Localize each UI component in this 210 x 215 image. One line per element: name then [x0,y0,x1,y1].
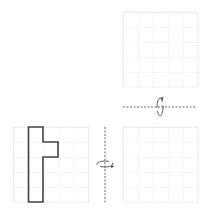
source-grid [14,127,89,202]
rotate-vertical-arrow-icon [157,97,164,117]
rotate-horizontal-arrow-icon [97,161,115,168]
vertical-flip-result-grid [123,127,198,202]
horizontal-flip-result-grid [123,12,198,87]
flip-diagram [0,0,210,215]
